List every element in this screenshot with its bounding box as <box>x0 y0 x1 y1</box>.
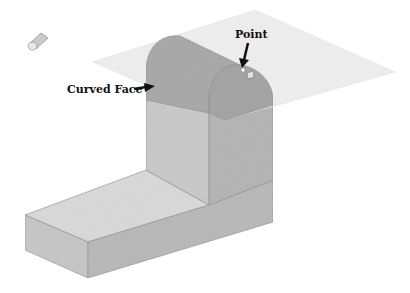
curved-face-label: Curved Face <box>67 83 143 96</box>
part-diagram: Point Curved Face <box>0 0 410 293</box>
cylinder-feature-icon[interactable] <box>28 33 48 50</box>
point-label: Point <box>235 28 268 41</box>
